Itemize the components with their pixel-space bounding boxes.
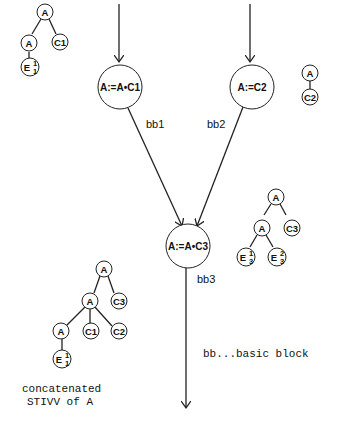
- tree1-left: A: [26, 38, 33, 49]
- bb3-statement: A:=A•C3: [168, 241, 208, 252]
- bb3-label: bb3: [197, 273, 215, 285]
- caption-line2: STIVV of A: [27, 396, 93, 408]
- tree-3: A A C3 E 1 3 E 2 3: [237, 189, 300, 266]
- bb2-statement: A:=C2: [237, 82, 267, 93]
- bb1-statement: A:=A•C1: [100, 82, 140, 93]
- tree3-leaf1: E: [240, 252, 246, 263]
- tree4-root: A: [101, 264, 108, 275]
- tree4-mid-right: C3: [113, 296, 125, 307]
- tree4-low-c2: C2: [113, 326, 125, 337]
- legend-text: bb...basic block: [203, 348, 309, 360]
- tree3-leaf1-sub: 3: [249, 257, 253, 266]
- tree-4: A A C3 A C1 C2 E 1 1: [53, 261, 127, 368]
- tree-2: A C2: [302, 65, 318, 105]
- bb2-label: bb2: [207, 118, 225, 130]
- basic-block-bb2: A:=C2: [230, 65, 274, 109]
- control-flow-diagram: A:=A•C1 bb1 A:=C2 bb2 A:=A•C3 bb3 A A C1…: [0, 0, 344, 421]
- tree1-leaf: E: [24, 62, 30, 73]
- tree4-mid: A: [87, 296, 94, 307]
- tree4-low: A: [58, 326, 65, 337]
- bb1-label: bb1: [146, 118, 164, 130]
- tree3-root: A: [273, 192, 280, 203]
- tree2-root: A: [307, 68, 314, 79]
- tree4-leaf-sub: 1: [65, 359, 69, 368]
- tree3-leaf2-sub: 3: [280, 257, 284, 266]
- tree3-left: A: [259, 223, 266, 234]
- tree4-low-c1: C1: [85, 326, 98, 337]
- tree1-leaf-sub: 1: [33, 67, 37, 76]
- tree3-right: C3: [286, 223, 298, 234]
- basic-block-bb3: A:=A•C3: [166, 224, 210, 268]
- tree-1: A A C1 E 1 1: [21, 4, 68, 76]
- tree2-child: C2: [304, 92, 316, 103]
- tree4-leaf: E: [56, 354, 62, 365]
- basic-block-bb1: A:=A•C1: [98, 65, 142, 109]
- tree1-root: A: [42, 7, 49, 18]
- caption-line1: concatenated: [22, 383, 101, 395]
- tree1-right: C1: [54, 37, 67, 48]
- tree3-leaf2: E: [271, 252, 277, 263]
